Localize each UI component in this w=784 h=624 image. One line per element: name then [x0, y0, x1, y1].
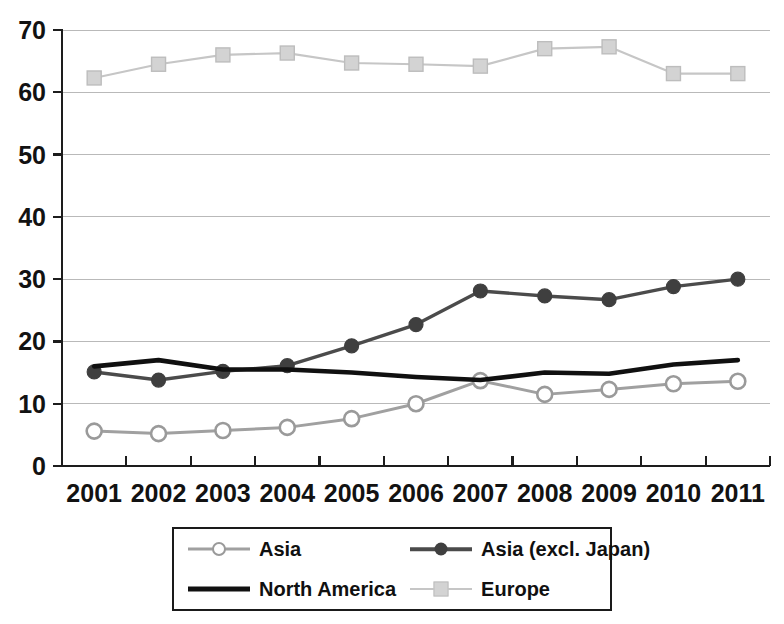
- x-axis-label-2008: 2008: [517, 479, 573, 507]
- y-axis-label-50: 50: [18, 141, 46, 169]
- marker-asia-2010: [666, 376, 681, 391]
- marker-europe-2009: [602, 40, 616, 54]
- marker-asia-2008: [537, 387, 552, 402]
- legend-item-europe[interactable]: Europe: [396, 578, 650, 601]
- legend-label-asia-excl-japan: Asia (excl. Japan): [481, 538, 650, 561]
- y-axis-label-70: 70: [18, 16, 46, 44]
- marker-europe-2011: [731, 67, 745, 81]
- marker-europe-2010: [666, 67, 680, 81]
- x-axis-label-2011: 2011: [711, 479, 765, 507]
- data-series: [87, 40, 746, 441]
- y-axis-tick-labels: 010203040506070: [18, 16, 46, 480]
- gridlines: [62, 30, 770, 404]
- marker-asia-excl-japan-2002: [152, 373, 166, 387]
- legend-swatch-asia-excl-japan: [410, 539, 472, 559]
- marker-europe-2005: [345, 56, 359, 70]
- x-axis-tick-labels: 2001200220032004200520062007200820092010…: [66, 479, 765, 507]
- x-axis-label-2005: 2005: [324, 479, 380, 507]
- marker-europe-2002: [152, 57, 166, 71]
- legend-swatch-north-america: [188, 579, 250, 599]
- legend-item-asia-excl-japan[interactable]: Asia (excl. Japan): [396, 538, 650, 561]
- y-axis-label-40: 40: [18, 203, 46, 231]
- x-axis-label-2009: 2009: [581, 479, 637, 507]
- x-axis-label-2010: 2010: [646, 479, 702, 507]
- marker-asia-2004: [280, 420, 295, 435]
- legend-line-north-america: [188, 587, 250, 592]
- x-axis-label-2001: 2001: [66, 479, 122, 507]
- legend-marker-europe: [434, 582, 449, 597]
- legend-marker-asia-excl-japan: [435, 543, 448, 556]
- legend-swatch-europe: [410, 579, 472, 599]
- marker-asia-2011: [730, 374, 745, 389]
- marker-europe-2003: [216, 48, 230, 62]
- x-axis-label-2007: 2007: [453, 479, 509, 507]
- line-chart: 010203040506070 200120022003200420052006…: [0, 0, 784, 624]
- legend-label-asia: Asia: [259, 538, 301, 561]
- x-axis-label-2003: 2003: [195, 479, 251, 507]
- marker-asia-2006: [409, 396, 424, 411]
- y-axis-label-30: 30: [18, 265, 46, 293]
- marker-asia-excl-japan-2007: [473, 284, 487, 298]
- marker-asia-2001: [87, 424, 102, 439]
- marker-asia-excl-japan-2005: [345, 339, 359, 353]
- series-europe: [87, 40, 745, 85]
- legend-marker-asia: [212, 542, 226, 556]
- marker-asia-excl-japan-2010: [666, 280, 680, 294]
- marker-europe-2007: [473, 59, 487, 73]
- marker-asia-excl-japan-2008: [538, 289, 552, 303]
- chart-legend: AsiaAsia (excl. Japan)North AmericaEurop…: [172, 527, 612, 611]
- x-axis-label-2002: 2002: [131, 479, 187, 507]
- marker-europe-2004: [280, 46, 294, 60]
- y-axis-label-0: 0: [32, 452, 46, 480]
- legend-label-europe: Europe: [481, 578, 550, 601]
- legend-grid: AsiaAsia (excl. Japan)North AmericaEurop…: [174, 529, 610, 609]
- legend-swatch-asia: [188, 539, 250, 559]
- marker-europe-2001: [87, 71, 101, 85]
- y-axis-label-10: 10: [18, 390, 46, 418]
- legend-item-asia[interactable]: Asia: [174, 538, 396, 561]
- marker-asia-excl-japan-2006: [409, 318, 423, 332]
- x-axis-label-2006: 2006: [388, 479, 444, 507]
- marker-asia-2002: [151, 426, 166, 441]
- marker-asia-2009: [602, 382, 617, 397]
- legend-label-north-america: North America: [259, 578, 396, 601]
- y-axis-label-60: 60: [18, 78, 46, 106]
- marker-asia-2003: [215, 423, 230, 438]
- marker-europe-2008: [538, 42, 552, 56]
- marker-asia-2005: [344, 411, 359, 426]
- legend-item-north-america[interactable]: North America: [174, 578, 396, 601]
- series-asia: [87, 373, 746, 441]
- x-axis-label-2004: 2004: [259, 479, 315, 507]
- marker-asia-excl-japan-2009: [602, 293, 616, 307]
- marker-europe-2006: [409, 57, 423, 71]
- marker-asia-excl-japan-2011: [731, 272, 745, 286]
- y-axis-label-20: 20: [18, 327, 46, 355]
